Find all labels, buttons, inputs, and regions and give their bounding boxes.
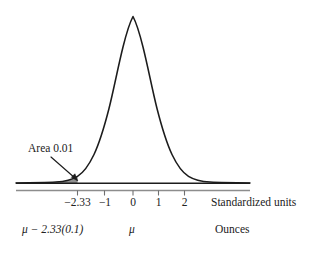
- tick-label-neg-1: −1: [99, 197, 111, 209]
- tick-label-2: 2: [182, 197, 188, 209]
- secondary-tick-label-mu-minus: μ − 2.33(0.1): [22, 224, 83, 236]
- tick-label-0: 0: [130, 197, 136, 209]
- tick-label-neg-2-33: −2.33: [64, 197, 91, 209]
- area-annotation-label: Area 0.01: [28, 143, 73, 155]
- secondary-axis-label-ounces: Ounces: [215, 224, 250, 236]
- normal-distribution-plot: [0, 0, 325, 253]
- normal-curve-figure: Area 0.01 −2.33 −1 0 1 2 Standardized un…: [0, 0, 325, 253]
- x-axis-label-standardized-units: Standardized units: [211, 197, 296, 209]
- normal-curve-path: [16, 17, 250, 183]
- annotation-arrow-icon: [51, 157, 78, 181]
- secondary-tick-label-mu: μ: [129, 224, 135, 236]
- tick-label-1: 1: [156, 197, 162, 209]
